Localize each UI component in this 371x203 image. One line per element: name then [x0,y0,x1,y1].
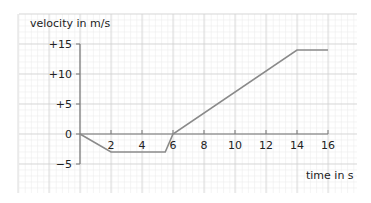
svg-text:8: 8 [201,139,208,152]
x-axis-label: time in s [306,169,354,182]
svg-text:−5: −5 [56,158,72,171]
svg-text:14: 14 [290,139,304,152]
velocity-time-chart: velocity in m/s time in s +15+10+50−5246… [0,0,371,203]
svg-text:10: 10 [228,139,242,152]
svg-text:12: 12 [259,139,273,152]
svg-text:16: 16 [321,139,335,152]
svg-text:6: 6 [170,139,177,152]
svg-text:2: 2 [108,139,115,152]
svg-text:+15: +15 [49,38,72,51]
svg-text:0: 0 [65,128,72,141]
y-axis-label: velocity in m/s [30,17,110,30]
svg-text:4: 4 [139,139,146,152]
svg-text:+10: +10 [49,68,72,81]
svg-text:+5: +5 [56,98,72,111]
